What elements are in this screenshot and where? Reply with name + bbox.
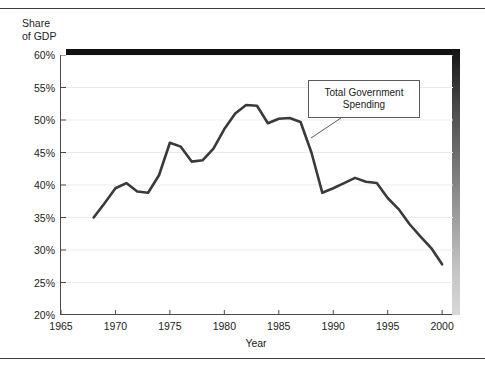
x-tick-marks	[61, 310, 442, 315]
bottom-divider-rule	[0, 358, 485, 359]
y-tick-label: 20%	[34, 310, 55, 321]
x-tick-label: 1995	[376, 321, 399, 332]
y-tick-label: 45%	[34, 147, 55, 158]
y-tick-label: 25%	[34, 277, 55, 288]
y-tick-label: 35%	[34, 212, 55, 223]
x-tick-label: 1965	[49, 321, 72, 332]
x-tick-label: 1985	[267, 321, 290, 332]
x-tick-label: 1970	[104, 321, 127, 332]
plot-right-shadow	[452, 49, 460, 315]
y-tick-marks	[61, 55, 66, 315]
x-tick-label: 1990	[322, 321, 345, 332]
x-tick-label: 1975	[158, 321, 181, 332]
series-callout-text: Total Government Spending	[309, 87, 419, 112]
x-tick-label: 2000	[430, 321, 453, 332]
series-callout-box: Total Government Spending	[308, 80, 420, 118]
y-tick-label: 30%	[34, 245, 55, 256]
top-divider-rule	[0, 8, 485, 9]
x-tick-label: 1980	[213, 321, 236, 332]
y-axis-title: Share of GDP	[22, 17, 56, 43]
y-tick-label: 60%	[34, 50, 55, 61]
y-tick-label: 55%	[34, 82, 55, 93]
callout-leader-line	[311, 118, 341, 138]
y-tick-label: 40%	[34, 180, 55, 191]
y-tick-label: 50%	[34, 115, 55, 126]
chart-figure: Share of GDP 20%25%30%35%40%45%50%55%60%…	[0, 0, 485, 370]
x-axis-title: Year	[60, 337, 452, 349]
